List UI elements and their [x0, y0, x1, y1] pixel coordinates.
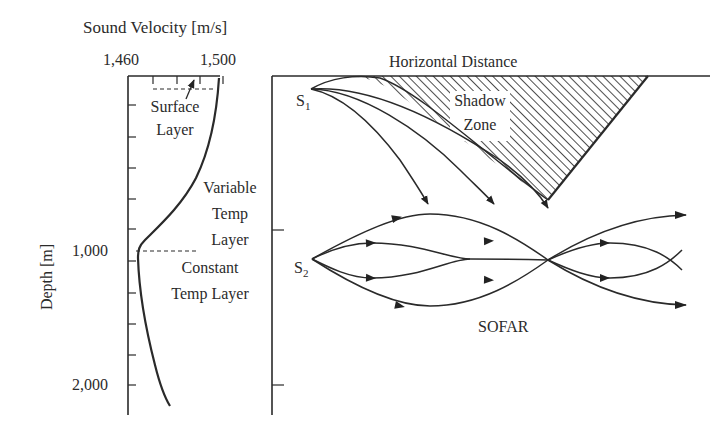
depth-axis-title: Depth [m]	[38, 237, 56, 317]
source-s1-subscript: 1	[305, 100, 311, 112]
surface-layer-label-1: Surface	[140, 98, 210, 116]
depth-tick-1000: 1,000	[72, 242, 108, 260]
source-s2-label: S2	[294, 259, 308, 279]
source-s1-letter: S	[296, 92, 305, 109]
depth-tick-2000: 2,000	[72, 376, 108, 394]
shadow-zone-label-2: Zone	[448, 116, 512, 134]
velocity-tick-1460: 1,460	[103, 51, 139, 69]
variable-temp-label-2: Temp	[190, 205, 270, 223]
constant-temp-label-2: Temp Layer	[150, 285, 270, 303]
sofar-arrowheads	[366, 211, 687, 311]
velocity-tick-1500: 1,500	[200, 51, 236, 69]
constant-temp-label-1: Constant	[150, 259, 270, 277]
surface-layer-label-2: Layer	[140, 121, 210, 139]
source-s2-subscript: 2	[303, 267, 309, 279]
shadow-zone-label-1: Shadow	[448, 92, 512, 110]
source-s2-letter: S	[294, 259, 303, 276]
surface-arrow	[186, 80, 194, 99]
variable-temp-label-3: Layer	[190, 231, 270, 249]
sofar-channel-label: SOFAR	[478, 318, 528, 336]
variable-temp-label-1: Variable	[190, 179, 270, 197]
source-s1-label: S1	[296, 92, 310, 112]
horizontal-distance-title: Horizontal Distance	[389, 53, 517, 71]
velocity-axis-title: Sound Velocity [m/s]	[83, 18, 227, 38]
depth-ticks	[128, 105, 136, 385]
velocity-ticks	[153, 76, 223, 84]
s2-sofar-rays	[312, 214, 686, 306]
